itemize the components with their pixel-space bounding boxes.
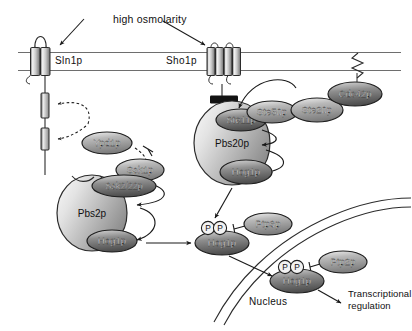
phosphate-p-cyto-1: P [201,221,214,234]
phosphate-label: P [217,223,223,233]
protein-label-ptp2p: Ptp2p [330,256,355,267]
protein-label-ssk1p: Ssk1p [127,164,154,175]
protein-ptp3p[interactable]: Ptp3p [244,213,292,235]
protein-ste50p[interactable]: Ste50p [247,101,297,123]
protein-label-ptp3p: Ptp3p [255,218,280,229]
hog-pathway-diagram: high osmolarity Sln1p Sho1p Nucleus Tran… [0,0,412,331]
phosphate-label: P [282,262,288,272]
protein-label-pbs20p: Pbs20p [215,138,249,149]
phosphate-p-nuc-1: P [278,260,291,273]
protein-label-hog1p_pbs2: Hog1p [98,235,126,246]
protein-nodes-layer: Ypd1pSsk1pSsk2/22pPbs2pHog1pSte11pSte50p… [0,0,412,331]
phosphate-label: P [294,262,300,272]
phosphate-p-nuc-2: P [290,260,303,273]
phosphate-label: P [205,223,211,233]
protein-label-cdc42p: Cdc42p [338,88,371,99]
protein-ypd1p[interactable]: Ypd1p [82,132,132,154]
protein-label-hog1p_pbs20: Hog1p [232,166,260,177]
protein-cdc42p[interactable]: Cdc42p [328,82,382,106]
protein-ptp2p[interactable]: Ptp2p [319,251,367,273]
protein-label-hog1p_cyto: Hog1p [208,237,236,248]
protein-hog1p_pbs20[interactable]: Hog1p [220,160,272,184]
protein-label-hog1p_nuc: Hog1p [283,275,311,286]
phosphate-p-cyto-2: P [213,221,226,234]
protein-label-ssk2_22p: Ssk2/22p [105,181,143,191]
protein-label-ste50p: Ste50p [257,106,287,117]
protein-label-ypd1p: Ypd1p [93,137,120,148]
protein-hog1p_pbs2[interactable]: Hog1p [87,230,137,252]
protein-label-ste20p: Ste20p [302,104,332,115]
protein-ssk2_22p[interactable]: Ssk2/22p [92,175,156,197]
protein-label-pbs2p: Pbs2p [78,208,107,219]
